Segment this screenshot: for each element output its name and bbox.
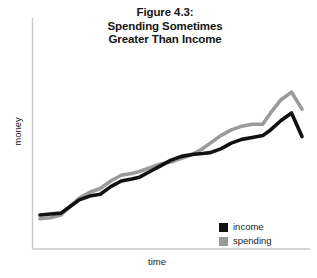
legend-item-spending: spending (219, 234, 272, 248)
legend-item-income: income (219, 220, 272, 234)
legend-label-income: income (233, 222, 264, 232)
y-axis-label: money (12, 102, 23, 162)
x-axis-label: time (112, 256, 202, 267)
series-line-income (40, 113, 302, 215)
legend-label-spending: spending (233, 236, 272, 246)
legend-swatch-spending (219, 237, 228, 246)
plot-area: money time income spending (0, 0, 317, 278)
figure-container: Figure 4.3: Spending Sometimes Greater T… (0, 0, 317, 278)
legend-swatch-income (219, 223, 228, 232)
chart-legend: income spending (219, 220, 272, 248)
